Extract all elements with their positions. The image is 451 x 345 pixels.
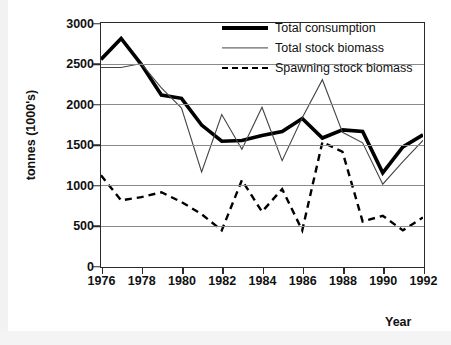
x-axis-tick-mark — [263, 268, 265, 274]
y-axis-tick-label: 500 — [50, 219, 94, 233]
thick-line-swatch — [222, 21, 268, 35]
y-axis-tick-mark — [93, 144, 100, 146]
x-axis-tick-mark — [182, 268, 184, 274]
y-axis-tick-mark — [93, 104, 100, 106]
x-axis-tick-mark — [142, 268, 144, 274]
x-axis-tick-label: 1986 — [280, 274, 326, 288]
x-axis-tick-label: 1984 — [240, 274, 286, 288]
y-axis-tick-label: 0 — [50, 260, 94, 274]
legend-item: Total consumption — [222, 18, 413, 38]
y-axis-tick-label: 1000 — [50, 179, 94, 193]
y-axis-tick-mark — [93, 63, 100, 65]
y-axis-tick-mark — [93, 225, 100, 227]
legend-item-label: Spawning stock biomass — [275, 61, 413, 75]
y-axis-tick-mark — [93, 185, 100, 187]
y-axis-tick-mark — [93, 23, 100, 25]
dashed-line-swatch — [222, 61, 268, 75]
x-axis-tick-label: 1980 — [159, 274, 205, 288]
scan-edge-left — [0, 0, 8, 345]
line-chart-figure: tonnes (1000's) Year 3000250020001500100… — [0, 0, 451, 345]
y-axis-tick-label: 1500 — [50, 138, 94, 152]
x-axis-tick-mark — [102, 268, 104, 274]
gridline — [101, 185, 424, 186]
x-axis-tick-mark — [222, 268, 224, 274]
series-line — [101, 64, 423, 185]
y-axis-tick-mark — [93, 266, 100, 268]
gridline — [101, 104, 424, 105]
x-axis-tick-label: 1976 — [79, 274, 125, 288]
x-axis-tick-label: 1982 — [199, 274, 245, 288]
x-axis-tick-mark — [424, 268, 426, 274]
legend-item-label: Total stock biomass — [275, 41, 384, 55]
gridline — [101, 145, 424, 146]
x-axis-tick-mark — [303, 268, 305, 274]
x-axis-tick-label: 1990 — [360, 274, 406, 288]
x-axis-tick-mark — [383, 268, 385, 274]
scan-edge-bottom — [0, 331, 451, 345]
y-axis-title: tonnes (1000's) — [24, 60, 38, 210]
x-axis-tick-label: 1988 — [320, 274, 366, 288]
chart-legend: Total consumptionTotal stock biomassSpaw… — [222, 18, 413, 78]
x-axis-tick-label: 1992 — [401, 274, 447, 288]
legend-item: Total stock biomass — [222, 38, 413, 58]
legend-item-label: Total consumption — [275, 21, 376, 35]
y-axis-tick-label: 2500 — [50, 57, 94, 71]
thin-line-swatch — [222, 41, 268, 55]
gridline — [101, 226, 424, 227]
x-axis-tick-mark — [343, 268, 345, 274]
y-axis-tick-label: 2000 — [50, 98, 94, 112]
legend-item: Spawning stock biomass — [222, 58, 413, 78]
y-axis-tick-label: 3000 — [50, 17, 94, 31]
x-axis-title: Year — [385, 315, 411, 329]
x-axis-tick-label: 1978 — [119, 274, 165, 288]
